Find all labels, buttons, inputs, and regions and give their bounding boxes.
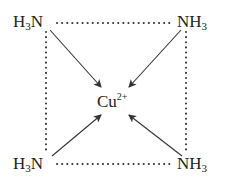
central-metal-ion: Cu2+: [97, 92, 127, 110]
ligand-n: N: [31, 154, 43, 173]
ligand-n: N: [177, 154, 189, 173]
metal-symbol: Cu: [97, 92, 117, 111]
ligand-n: N: [177, 12, 189, 31]
ligand-n: N: [31, 12, 43, 31]
ligand-subscript: 3: [202, 162, 208, 174]
ligand-top-right: NH3: [177, 13, 207, 32]
arrow-bottom-right: [129, 115, 182, 156]
arrow-top-right: [129, 30, 181, 87]
ligand-bottom-right: NH3: [177, 155, 207, 174]
ligand-h: H: [189, 154, 201, 173]
ligand-top-left: H3N: [13, 13, 43, 32]
arrow-bottom-left: [52, 115, 101, 156]
ligand-h: H: [13, 12, 25, 31]
ligand-h: H: [189, 12, 201, 31]
arrow-top-left: [50, 30, 101, 87]
ligand-subscript: 3: [202, 20, 208, 32]
ligand-bottom-left: H3N: [13, 155, 43, 174]
complex-diagram: H3N NH3 Cu2+ H3N NH3: [0, 0, 230, 183]
ligand-h: H: [13, 154, 25, 173]
metal-charge: 2+: [117, 91, 128, 102]
